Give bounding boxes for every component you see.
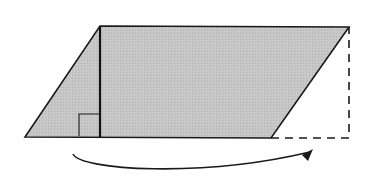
parallelogram-area-diagram (0, 0, 368, 189)
arrow-head-icon (302, 149, 313, 161)
diagram-canvas (0, 0, 368, 189)
curved-move-arrow (73, 152, 310, 169)
parallelogram-shape (25, 26, 349, 138)
